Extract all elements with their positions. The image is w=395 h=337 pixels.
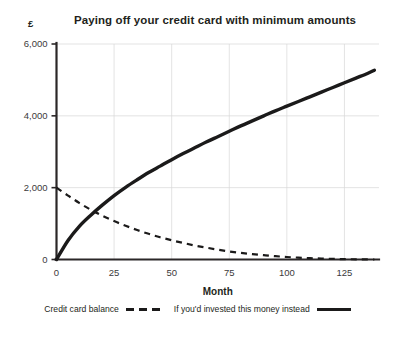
solid-line-swatch-icon [317, 308, 351, 311]
series-line-credit-card-balance [57, 188, 375, 260]
legend-label: Credit card balance [44, 305, 119, 314]
chart-container: Paying off your credit card with minimum… [0, 0, 395, 337]
x-axis-title: Month [203, 286, 233, 297]
y-tick-label: 2,000 [24, 182, 48, 193]
legend-label: If you'd invested this money instead [174, 305, 310, 314]
legend-item-credit-card-balance: Credit card balance [44, 305, 160, 314]
x-tick-label: 75 [224, 267, 235, 278]
chart-plot: 02,0004,0006,000 0255075100125 Month [0, 0, 395, 337]
y-tick-label: 0 [42, 254, 47, 265]
axis-lines [56, 43, 380, 260]
x-tick-label: 25 [109, 267, 120, 278]
x-axis-tick-labels: 0255075100125 [54, 267, 353, 278]
x-tick-label: 50 [166, 267, 177, 278]
series-line-invested-instead [57, 70, 375, 259]
legend-item-invested-instead: If you'd invested this money instead [174, 305, 351, 314]
data-series [57, 70, 375, 259]
x-tick-label: 125 [337, 267, 353, 278]
x-tick-label: 100 [279, 267, 295, 278]
y-tick-label: 4,000 [24, 110, 48, 121]
x-tick-label: 0 [54, 267, 59, 278]
dashed-line-swatch-icon [126, 308, 160, 311]
gridlines [57, 44, 380, 260]
y-tick-label: 6,000 [24, 38, 48, 49]
chart-legend: Credit card balance If you'd invested th… [0, 305, 395, 314]
y-axis-tick-labels: 02,0004,0006,000 [24, 38, 48, 265]
